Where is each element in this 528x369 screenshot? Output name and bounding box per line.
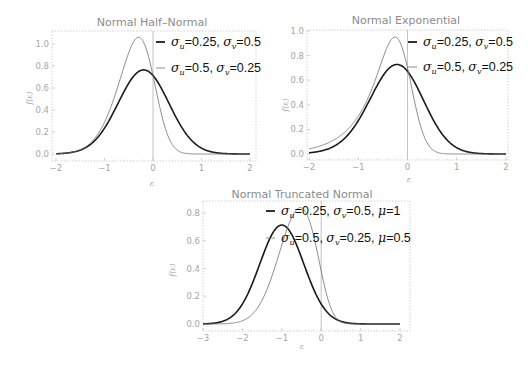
frame-rect (52, 31, 256, 161)
y-tick-label: 0.6 (35, 83, 49, 93)
density-curves (203, 208, 400, 324)
x-axis-label: ε (150, 179, 154, 188)
x-tick-label: 0 (405, 162, 410, 172)
y-tick-label: 0.8 (35, 61, 49, 71)
figure: Normal Half–Normal −2−10120.00.20.40.60.… (0, 0, 528, 369)
y-tick-label: 0.4 (186, 264, 200, 274)
x-tick-label: −3 (197, 333, 210, 343)
x-axis-label: ε (300, 342, 304, 351)
y-tick-label: 1.0 (35, 39, 49, 49)
plot-frame (307, 30, 508, 160)
plot-frame (203, 201, 410, 331)
x-tick-label: −1 (98, 163, 111, 173)
legend-entry: σu=0.25, σv=0.5 (171, 34, 261, 51)
x-tick-label: −1 (352, 162, 365, 172)
y-axis-label: f(ε) (281, 98, 290, 113)
plot-frame (52, 31, 256, 161)
x-tick-label: 2 (397, 333, 402, 343)
panel-normal-truncated-normal: Normal Truncated Normal −3−2−10120.00.20… (168, 188, 411, 351)
y-tick-label: 1.0 (290, 26, 304, 36)
x-tick-label: 1 (358, 333, 363, 343)
legend: σu=0.25, σv=0.5σu=0.5, σv=0.25 (156, 34, 261, 77)
y-axis-label: f(ε) (25, 91, 34, 106)
x-tick-label: −2 (236, 333, 249, 343)
legend-entry: σu=0.5, σv=0.25 (171, 60, 261, 77)
y-tick-label: 0.0 (290, 149, 304, 159)
legend: σu=0.25, σv=0.5σu=0.5, σv=0.25 (408, 34, 513, 76)
y-tick-label: 0.0 (186, 319, 200, 329)
y-tick-label: 0.6 (186, 236, 200, 246)
y-axis-label: f(ε) (168, 263, 177, 278)
x-tick-label: −2 (303, 162, 316, 172)
curve-thin (203, 208, 400, 324)
panel-normal-half-normal: Normal Half–Normal −2−10120.00.20.40.60.… (25, 16, 261, 188)
x-tick-label: 0 (318, 333, 323, 343)
x-tick-label: 0 (150, 163, 155, 173)
frame-rect (203, 201, 410, 331)
y-tick-label: 0.2 (35, 127, 49, 137)
legend-entry: σu=0.25, σv=0.5 (423, 34, 513, 51)
x-tick-label: −1 (276, 333, 289, 343)
y-tick-label: 0.4 (35, 105, 49, 115)
y-tick-label: 0.2 (186, 291, 200, 301)
panel-title: Normal Truncated Normal (231, 188, 372, 201)
legend-entry: σu=0.25, σv=0.5, μ=1 (281, 203, 400, 220)
x-tick-label: 2 (247, 163, 252, 173)
x-axis-label: ε (407, 175, 411, 184)
legend-entry: σu=0.5, σv=0.25 (423, 59, 513, 76)
y-tick-label: 0.2 (290, 124, 304, 134)
y-tick-label: 0.4 (290, 100, 304, 110)
y-tick-label: 0.8 (290, 51, 304, 61)
panel-normal-exponential: Normal Exponential −2−10120.00.20.40.60.… (281, 14, 513, 184)
x-tick-label: −2 (50, 163, 63, 173)
x-tick-label: 1 (199, 163, 204, 173)
x-tick-label: 2 (503, 162, 508, 172)
y-tick-label: 0.0 (35, 149, 49, 159)
legend-entry: σu=0.5, σv=0.25, μ=0.5 (281, 230, 411, 247)
panel-title: Normal Half–Normal (97, 16, 208, 29)
legend: σu=0.25, σv=0.5, μ=1σu=0.5, σv=0.25, μ=0… (266, 203, 411, 247)
y-tick-label: 0.8 (186, 208, 200, 218)
panel-title: Normal Exponential (352, 14, 460, 27)
y-tick-label: 0.6 (290, 75, 304, 85)
x-tick-label: 1 (454, 162, 459, 172)
